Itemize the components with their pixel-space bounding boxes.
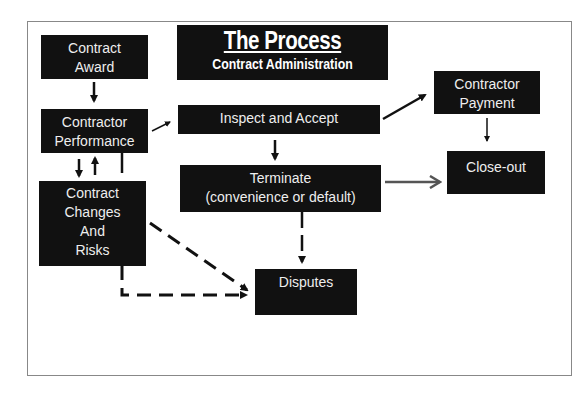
connector-arrows bbox=[0, 0, 588, 401]
arrow-inspect-to-payment bbox=[383, 95, 425, 119]
arrow-changes-bottom-to-disputes bbox=[122, 266, 246, 295]
arrow-performance-to-inspect bbox=[152, 122, 170, 131]
arrow-changes-to-disputes bbox=[150, 223, 247, 290]
